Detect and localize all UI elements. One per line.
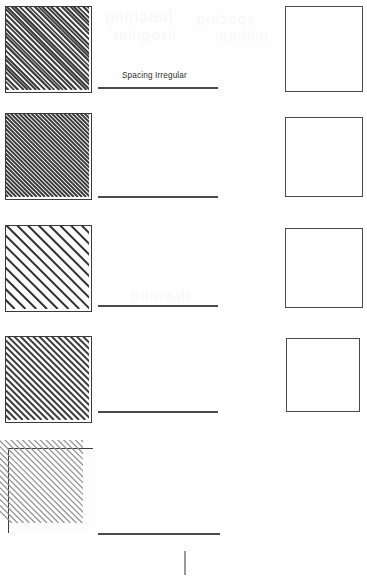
scan-ghost-text: irregular [112, 26, 176, 43]
answer-rule-5[interactable] [98, 533, 220, 535]
answer-rule-1[interactable] [98, 87, 218, 89]
hatch-lines [0, 440, 83, 523]
empty-answer-box-3[interactable] [285, 228, 363, 308]
label-spacing-irregular: Spacing Irregular [122, 72, 187, 80]
hatch-lines [5, 6, 89, 90]
text-caret [184, 551, 186, 575]
empty-answer-box-2[interactable] [285, 117, 363, 197]
scan-ghost-text: hatching [104, 8, 173, 26]
answer-rule-2[interactable] [98, 196, 218, 198]
hatch-lines [5, 225, 89, 309]
hatch-lines [5, 336, 89, 420]
answer-rule-3[interactable] [98, 305, 218, 307]
hatch-sample-1[interactable] [5, 6, 92, 93]
worksheet-page: hatchingspacingirregularuniformdrawing S… [0, 0, 367, 576]
answer-rule-4[interactable] [98, 411, 218, 413]
hatch-lines [5, 113, 89, 197]
scan-ghost-text: drawing [130, 286, 190, 303]
hatch-sample-5[interactable] [8, 448, 93, 533]
scan-ghost-text: spacing [196, 10, 255, 27]
scan-ghost-text: uniform [214, 28, 268, 44]
empty-answer-box-1[interactable] [285, 6, 363, 92]
hatch-sample-3[interactable] [5, 225, 92, 312]
hatch-sample-4[interactable] [5, 336, 92, 423]
empty-answer-box-4[interactable] [286, 338, 360, 412]
hatch-sample-2[interactable] [5, 113, 92, 200]
